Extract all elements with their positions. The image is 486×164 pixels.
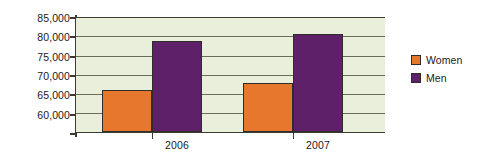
legend-item-men: Men — [411, 70, 483, 86]
legend-label-men: Men — [426, 72, 447, 84]
plot-area — [76, 17, 385, 133]
y-axis-labels: 85,000 80,000 75,000 70,000 65,000 60,00… — [0, 0, 70, 164]
legend-label-women: Women — [426, 54, 463, 66]
legend-item-women: Women — [411, 52, 483, 68]
y-tick-label: 70,000 — [2, 71, 70, 81]
women-color-swatch-icon — [411, 55, 421, 65]
bar-men-2007 — [293, 34, 343, 132]
chart-legend: Women Men — [411, 52, 483, 88]
bar-men-2006 — [152, 41, 202, 132]
y-tick-label: 65,000 — [2, 90, 70, 100]
y-tick-label: 75,000 — [2, 52, 70, 62]
bar-chart: 85,000 80,000 75,000 70,000 65,000 60,00… — [0, 0, 486, 164]
y-tick-label: 80,000 — [2, 32, 70, 42]
x-axis-label-2006: 2006 — [147, 139, 207, 151]
x-axis-label-2007: 2007 — [288, 139, 348, 151]
men-color-swatch-icon — [411, 73, 421, 83]
bar-women-2007 — [243, 83, 293, 132]
y-tick-label: 85,000 — [2, 13, 70, 23]
y-tick-label: 60,000 — [2, 110, 70, 120]
bar-women-2006 — [102, 90, 152, 132]
